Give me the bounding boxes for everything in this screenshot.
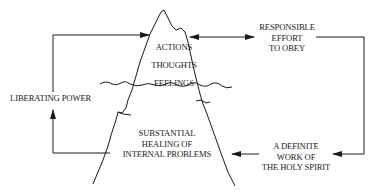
responsible-effort-label: RESPONSIBLE EFFORT TO OBEY <box>252 22 322 54</box>
holy-spirit-label: A DEFINITE WORK OF THE HOLY SPIRIT <box>254 141 338 173</box>
label-thoughts: THOUGHTS <box>142 56 206 74</box>
iceberg-diagram: ACTIONS THOUGHTS FEELINGS RESPONSIBLE EF… <box>0 0 382 193</box>
iceberg-right-edge <box>161 10 235 186</box>
label-actions: ACTIONS <box>142 38 206 56</box>
iceberg-top-label: ACTIONS THOUGHTS FEELINGS <box>142 38 206 92</box>
healing-label: SUBSTANTIAL HEALING OF INTERNAL PROBLEMS <box>122 128 212 160</box>
arrow-healing-to-liberating <box>53 110 110 153</box>
arrow-responsible-to-holyspirit <box>316 37 364 154</box>
liberating-power-label: LIBERATING POWER <box>10 93 100 104</box>
label-feelings: FEELINGS <box>142 74 206 92</box>
iceberg-left-jag <box>118 112 131 115</box>
